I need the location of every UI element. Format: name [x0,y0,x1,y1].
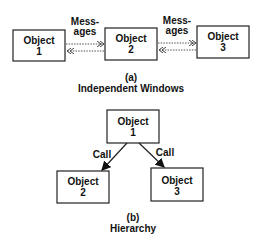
a-caption-title: Independent Windows [78,83,184,94]
a-messages-2-3: Mess- ages [158,15,196,50]
b-caption-letter: (b) [127,212,140,223]
a-object-2-name: Object [115,33,147,44]
a-caption-letter: (a) [125,72,137,83]
a-object-3: Object 3 [197,26,249,58]
b-object-1-num: 1 [130,127,136,138]
diagram-canvas: Object 1 Object 2 Object 3 Mess- ages Me… [0,0,263,244]
b-object-3-name: Object [161,175,193,186]
call-label-left: Call [93,149,112,160]
a-object-2-num: 2 [128,44,134,55]
a-object-3-num: 3 [220,42,226,53]
diagram-a: Object 1 Object 2 Object 3 Mess- ages Me… [13,15,249,94]
b-object-2-num: 2 [80,187,86,198]
b-object-1: Object 1 [107,110,159,143]
b-object-2-name: Object [67,176,99,187]
a-object-1: Object 1 [13,30,65,61]
diagram-b: Object 1 Object 2 Object 3 Call Call (b)… [57,110,203,234]
a-object-3-name: Object [207,31,239,42]
a-object-2: Object 2 [105,28,157,60]
b-object-2: Object 2 [57,171,109,203]
a-messages-1-2: Mess- ages [66,16,104,51]
b-object-3: Object 3 [151,168,203,201]
b-caption-title: Hierarchy [110,223,157,234]
b-object-1-name: Object [117,116,149,127]
a-object-1-num: 1 [36,46,42,57]
a-messages-label-1b: ages [74,26,97,37]
a-messages-label-2b: ages [166,25,189,36]
call-label-right: Call [156,147,175,158]
a-object-1-name: Object [23,35,55,46]
b-object-3-num: 3 [174,186,180,197]
